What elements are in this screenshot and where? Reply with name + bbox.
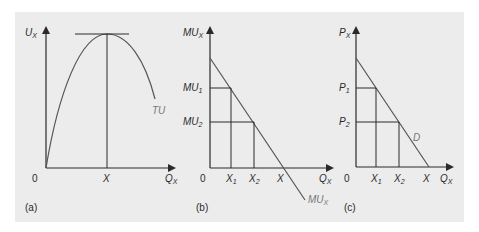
y-tick-mu2: MU2 [183,116,203,128]
x-axis-label: QX [165,173,178,185]
y-tick-p2: P2 [339,116,350,128]
x-tick-x1: X1 [370,173,382,185]
tu-curve-label: TU [152,105,166,116]
x-tick-x2: X2 [248,173,260,185]
demand-line [356,58,429,167]
origin-label: 0 [200,173,206,184]
panel-caption: (a) [25,202,37,213]
tu-curve [46,34,155,168]
y-tick-p1: P1 [339,82,350,94]
panel-c-demand: PX P1 P2 0 X1 X2 X QX D (c) [339,27,453,213]
x-tick-x: X [422,173,430,184]
origin-label: 0 [344,173,350,184]
y-axis-label: MUX [183,27,204,39]
panel-caption: (c) [344,202,356,213]
y-axis-label: PX [339,27,351,39]
x-tick-label: X [102,173,110,184]
x-tick-x: X [276,173,284,184]
x-tick-x2: X2 [393,173,405,185]
panel-a-total-utility: UX QX 0 X TU (a) [25,27,178,213]
demand-curve-label: D [413,132,420,143]
y-tick-mu1: MU1 [183,82,203,94]
x-axis-label: QX [440,173,453,185]
origin-label: 0 [32,173,38,184]
economics-figure: UX QX 0 X TU (a) MUX MU1 MU2 0 X1 X2 X Q… [0,0,479,232]
mu-curve-label: MUX [308,194,329,206]
x-tick-x1: X1 [225,173,237,185]
x-axis-label: QX [319,173,332,185]
y-axis-label: UX [25,27,37,39]
panel-caption: (b) [196,202,208,213]
panel-b-marginal-utility: MUX MU1 MU2 0 X1 X2 X QX MUX (b) [183,27,332,213]
